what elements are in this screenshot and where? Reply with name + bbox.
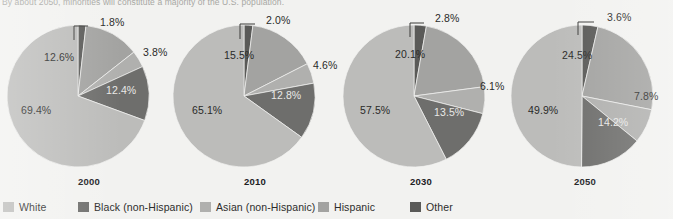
pie-chart-2030: 2.8%20.1%6.1%13.5%57.5%2030 [336,6,506,191]
slice-value-label: 4.6% [313,59,337,71]
legend-label: Other [426,201,453,213]
legend-swatch-icon [318,202,329,212]
slice-value-label: 3.6% [607,11,631,23]
slice-value-label: 49.9% [528,104,558,116]
pie-chart-2000: 1.8%12.6%3.8%12.4%69.4%2000 [4,6,174,191]
slice-value-label: 12.8% [271,89,301,101]
pie-slice-hispanic [414,26,484,96]
pie-canvas: 2.0%15.5%4.6%12.8%65.1% [170,6,340,166]
slice-value-label: 1.8% [100,16,124,28]
pie-year-label: 2050 [500,176,670,187]
legend-item-other: Other [410,200,453,214]
pie-year-label: 2010 [170,176,340,187]
slice-value-label: 12.4% [106,84,136,96]
slice-value-label: 2.0% [266,14,290,26]
legend-label: Asian (non-Hispanic) [216,201,315,213]
slice-value-label: 20.1% [395,48,425,60]
slice-value-label: 57.5% [360,104,390,116]
legend-label: Black (non-Hispanic) [94,201,193,213]
pie-year-label: 2000 [4,176,174,187]
pie-chart-2050: 3.6%24.5%7.8%14.2%49.9%2050 [500,6,670,191]
slice-value-label: 14.2% [598,116,628,128]
slice-value-label: 7.8% [634,90,658,102]
pie-chart-group: 1.8%12.6%3.8%12.4%69.4%20002.0%15.5%4.6%… [0,6,673,191]
legend-swatch-icon [78,202,89,212]
legend-label: Hispanic [334,201,375,213]
legend-swatch-icon [200,202,211,212]
slice-value-label: 65.1% [192,104,222,116]
legend-item-asian-non-hispanic: Asian (non-Hispanic) [200,200,315,214]
pie-canvas: 3.6%24.5%7.8%14.2%49.9% [500,6,670,166]
legend-item-white: White [3,200,46,214]
legend-label: White [19,201,46,213]
slice-value-label: 3.8% [143,46,167,58]
legend-item-black-non-hispanic: Black (non-Hispanic) [78,200,193,214]
pie-canvas: 1.8%12.6%3.8%12.4%69.4% [4,6,174,166]
chart-legend: WhiteBlack (non-Hispanic)Asian (non-Hisp… [0,198,673,219]
slice-value-label: 2.8% [435,12,459,24]
pie-year-label: 2030 [336,176,506,187]
slice-value-label: 15.5% [224,49,254,61]
pie-canvas: 2.8%20.1%6.1%13.5%57.5% [336,6,506,166]
slice-value-label: 69.4% [21,104,51,116]
pie-chart-2010: 2.0%15.5%4.6%12.8%65.1%2010 [170,6,340,191]
slice-value-label: 24.5% [562,49,592,61]
legend-swatch-icon [3,202,14,212]
legend-swatch-icon [410,202,421,212]
legend-item-hispanic: Hispanic [318,200,375,214]
pie-slice-white [511,25,582,167]
slice-value-label: 13.5% [434,106,464,118]
slice-value-label: 12.6% [44,51,74,63]
